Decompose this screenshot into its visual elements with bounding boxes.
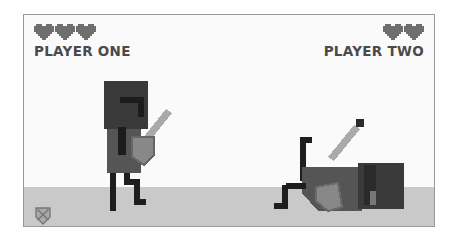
game-viewport[interactable]: PLAYER ONE PLAYER TWO [23, 14, 435, 227]
player-one-hearts [34, 22, 131, 42]
sword [328, 125, 360, 161]
player-two-hearts [324, 22, 424, 42]
player-one-knight [94, 81, 184, 211]
heart-icon [404, 22, 424, 42]
player-two-hud: PLAYER TWO [324, 22, 424, 59]
heart-icon [34, 22, 54, 42]
heart-icon [76, 22, 96, 42]
shield-emblem-icon[interactable] [35, 207, 51, 225]
heart-icon [383, 22, 403, 42]
player-one-hud: PLAYER ONE [34, 22, 131, 59]
player-two-name: PLAYER TWO [324, 43, 424, 59]
heart-icon [55, 22, 75, 42]
player-one-name: PLAYER ONE [34, 43, 131, 59]
player-two-knight [266, 113, 406, 213]
